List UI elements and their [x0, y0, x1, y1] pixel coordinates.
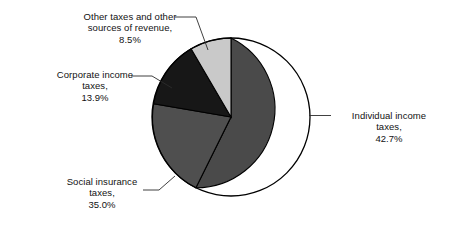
pie-label-individual-income-taxes: Individual income taxes, 42.7%	[333, 110, 445, 144]
pie-label-other-taxes: Other taxes and other sources of revenue…	[66, 11, 194, 45]
pie-label-social-insurance-taxes: Social insurance taxes, 35.0%	[44, 176, 160, 210]
pie-chart-figure: Other taxes and other sources of revenue…	[0, 0, 455, 231]
pie-label-corporate-income-taxes: Corporate income taxes, 13.9%	[36, 69, 154, 103]
